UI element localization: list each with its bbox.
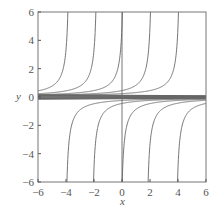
x-tick-label: −2	[88, 186, 100, 198]
lower-branch-curve	[67, 98, 206, 182]
lower-branch-curve	[122, 99, 206, 182]
curves-layer	[38, 12, 206, 182]
lower-branch-curve	[148, 100, 206, 182]
y-tick-label: 0	[29, 91, 35, 103]
x-tick-label: 4	[175, 186, 181, 198]
lower-branch-curve	[178, 103, 206, 182]
solution-curves-chart: −6−4−20246−6−4−20246 x y	[0, 0, 217, 222]
x-tick-label: 6	[203, 186, 209, 198]
y-tick-label: −4	[22, 148, 34, 160]
y-tick-label: −2	[22, 119, 34, 131]
y-tick-label: 4	[29, 34, 35, 46]
upper-branch-curve	[38, 12, 178, 96]
y-axis-label: y	[15, 90, 21, 102]
y-tick-label: 2	[29, 63, 35, 75]
x-axis-label: x	[119, 195, 125, 207]
x-tick-label: 2	[147, 186, 153, 198]
x-tick-label: −4	[60, 186, 72, 198]
y-tick-label: −6	[22, 176, 34, 188]
upper-branch-curve	[38, 12, 150, 95]
upper-branch-curve	[38, 12, 68, 91]
upper-branch-curve	[38, 12, 122, 95]
axis-ticks: −6−4−20246−6−4−20246	[22, 6, 209, 198]
upper-branch-curve	[38, 12, 96, 94]
y-tick-label: 6	[29, 6, 35, 18]
